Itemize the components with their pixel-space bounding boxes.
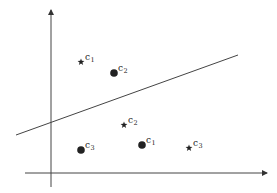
point-circle-c2: c2 <box>110 63 127 77</box>
diagram-canvas: c1c2c2c1c3c3 <box>0 0 277 193</box>
point-star-c2: c2 <box>121 115 138 128</box>
circle-marker-icon <box>138 141 146 149</box>
circle-marker-icon <box>77 146 85 154</box>
point-label: c1 <box>146 135 156 147</box>
point-label: c2 <box>128 115 138 127</box>
data-points: c1c2c2c1c3c3 <box>77 52 202 154</box>
point-label: c3 <box>85 140 95 152</box>
point-star-c3: c3 <box>186 138 203 151</box>
diagram-svg: c1c2c2c1c3c3 <box>0 0 277 193</box>
point-circle-c3: c3 <box>77 140 94 154</box>
star-marker-icon <box>121 121 128 128</box>
point-label: c2 <box>118 63 128 75</box>
star-marker-icon <box>78 58 85 65</box>
star-marker-icon <box>186 144 193 151</box>
point-label: c3 <box>193 138 203 150</box>
circle-marker-icon <box>110 69 118 77</box>
point-label: c1 <box>85 52 95 64</box>
point-circle-c1: c1 <box>138 135 155 149</box>
point-star-c1: c1 <box>78 52 95 65</box>
